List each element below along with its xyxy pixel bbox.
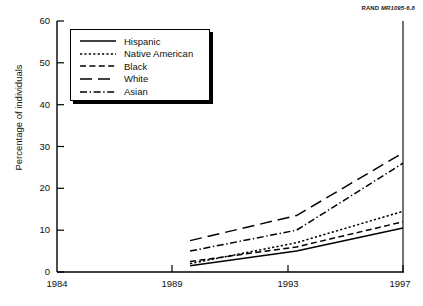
y-axis-ticks: [57, 21, 64, 272]
legend-swatch-white: [79, 74, 117, 84]
plot-area: [0, 0, 423, 306]
legend-swatch-native-american: [79, 49, 117, 59]
x-axis-ticks: [172, 265, 403, 272]
legend-label-native-american: Native American: [124, 49, 193, 59]
legend-item-asian: Asian: [79, 85, 203, 98]
series-line-native-american: [190, 211, 403, 263]
legend-label-hispanic: Hispanic: [124, 37, 160, 47]
legend-item-native-american: Native American: [79, 48, 203, 61]
data-series-layer: [190, 153, 403, 266]
chart-legend: Hispanic Native American Black White Asi…: [70, 29, 210, 101]
legend-swatch-hispanic: [79, 36, 117, 46]
legend-label-white: White: [124, 74, 148, 84]
series-line-white: [190, 153, 403, 241]
legend-swatch-asian: [79, 87, 117, 97]
series-line-asian: [190, 163, 403, 251]
legend-label-asian: Asian: [124, 87, 148, 97]
series-line-black: [190, 222, 403, 262]
chart-figure: RAND MR1095-6.8 Percentage of individual…: [0, 0, 423, 306]
legend-item-black: Black: [79, 60, 203, 73]
legend-label-black: Black: [124, 62, 147, 72]
legend-item-hispanic: Hispanic: [79, 35, 203, 48]
legend-swatch-black: [79, 61, 117, 71]
legend-item-white: White: [79, 73, 203, 86]
